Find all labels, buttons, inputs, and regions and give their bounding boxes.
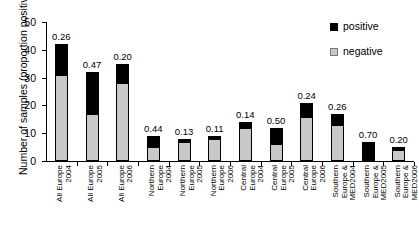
bar-stack bbox=[116, 64, 129, 161]
y-axis-line bbox=[46, 22, 47, 161]
bar-segment-positive bbox=[116, 64, 129, 83]
x-tick-mark bbox=[77, 162, 78, 166]
y-tick-label: 40 bbox=[14, 45, 36, 55]
bar-segment-positive bbox=[86, 72, 99, 114]
x-category-label: 2004 bbox=[65, 165, 74, 233]
bar-value-label: 0.47 bbox=[78, 60, 106, 70]
legend-label-positive: positive bbox=[343, 20, 379, 32]
bar-segment-negative bbox=[239, 128, 252, 161]
bar-segment-negative bbox=[116, 83, 129, 161]
x-category-label: MED2004 bbox=[349, 165, 358, 233]
bar-value-label: 0.20 bbox=[385, 135, 413, 145]
x-category-label: 2004 bbox=[257, 165, 266, 233]
y-tick-mark bbox=[42, 50, 46, 51]
bar-value-label: 0.26 bbox=[323, 102, 351, 112]
bar-stack bbox=[300, 103, 313, 161]
bar-segment-negative bbox=[270, 144, 283, 161]
x-category-label: 2004 bbox=[165, 165, 174, 233]
y-tick-mark bbox=[42, 105, 46, 106]
bar-segment-positive bbox=[270, 128, 283, 145]
y-tick-label: 0 bbox=[14, 156, 36, 166]
bar-segment-positive bbox=[362, 142, 375, 161]
bar-segment-positive bbox=[300, 103, 313, 117]
x-category-label: 2006 bbox=[227, 165, 236, 233]
bar-segment-negative bbox=[392, 150, 405, 161]
y-tick-label: 10 bbox=[14, 128, 36, 138]
bar-segment-positive bbox=[147, 136, 160, 147]
bar-segment-positive bbox=[208, 136, 221, 139]
bar-value-label: 0.24 bbox=[293, 91, 321, 101]
bar-stack bbox=[86, 72, 99, 161]
bar-stack bbox=[392, 147, 405, 161]
bar-segment-negative bbox=[300, 117, 313, 161]
bar-value-label: 0.70 bbox=[354, 130, 382, 140]
bar-stack bbox=[208, 136, 221, 161]
bar-segment-positive bbox=[392, 147, 405, 150]
y-tick-mark bbox=[42, 22, 46, 23]
legend-swatch-negative bbox=[330, 48, 338, 56]
x-category-label: 2006 bbox=[319, 165, 328, 233]
x-category-label: MED2005 bbox=[380, 165, 389, 233]
bar-value-label: 0.44 bbox=[139, 124, 167, 134]
bar-segment-negative bbox=[86, 114, 99, 161]
bar-stack bbox=[362, 142, 375, 161]
bar-segment-positive bbox=[331, 114, 344, 125]
bar-segment-positive bbox=[239, 122, 252, 128]
bar-stack bbox=[270, 128, 283, 161]
bar-stack bbox=[331, 114, 344, 161]
bar-segment-negative bbox=[208, 139, 221, 161]
bar-stack bbox=[55, 44, 68, 161]
bar-value-label: 0.14 bbox=[231, 110, 259, 120]
x-category-label: MED2006 bbox=[411, 165, 419, 233]
x-category-label: 2005 bbox=[288, 165, 297, 233]
bar-segment-positive bbox=[178, 139, 191, 142]
y-tick-mark bbox=[42, 133, 46, 134]
bar-segment-negative bbox=[178, 142, 191, 161]
x-category-label: 2005 bbox=[96, 165, 105, 233]
x-category-label: 2006 bbox=[126, 165, 135, 233]
y-axis-title: Number of samples (proportion positive) bbox=[14, 5, 32, 175]
y-tick-label: 20 bbox=[14, 100, 36, 110]
bar-stack bbox=[178, 139, 191, 161]
x-tick-mark bbox=[138, 162, 139, 166]
bar-segment-positive bbox=[55, 44, 68, 75]
legend-label-negative: negative bbox=[343, 45, 383, 57]
bar-value-label: 0.50 bbox=[262, 116, 290, 126]
bar-value-label: 0.26 bbox=[47, 32, 75, 42]
bar-value-label: 0.20 bbox=[109, 52, 137, 62]
bar-stack bbox=[239, 122, 252, 161]
legend-swatch-positive bbox=[330, 23, 338, 31]
bar-segment-negative bbox=[331, 125, 344, 161]
bar-stack bbox=[147, 136, 160, 161]
y-tick-label: 30 bbox=[14, 73, 36, 83]
y-tick-mark bbox=[42, 161, 46, 162]
x-category-label: 2005 bbox=[196, 165, 205, 233]
y-tick-label: 50 bbox=[14, 17, 36, 27]
bar-segment-negative bbox=[147, 147, 160, 161]
x-tick-mark bbox=[107, 162, 108, 166]
y-tick-mark bbox=[42, 78, 46, 79]
bar-value-label: 0.13 bbox=[170, 127, 198, 137]
bar-value-label: 0.11 bbox=[201, 124, 229, 134]
bar-segment-negative bbox=[55, 75, 68, 161]
